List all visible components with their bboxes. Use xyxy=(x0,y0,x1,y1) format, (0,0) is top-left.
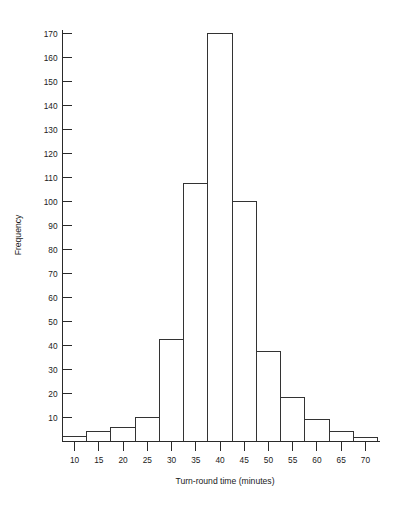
histogram-bar xyxy=(329,432,353,442)
y-tick-label: 30 xyxy=(48,365,58,375)
histogram-bar xyxy=(281,397,305,441)
x-tick-label: 15 xyxy=(94,455,104,465)
y-tick-label: 80 xyxy=(48,245,58,255)
y-tick-label: 90 xyxy=(48,221,58,231)
histogram-bar xyxy=(135,418,159,442)
histogram-bar xyxy=(159,340,183,442)
histogram-bar xyxy=(63,437,87,442)
histogram-bar xyxy=(184,184,208,442)
x-tick-label: 50 xyxy=(264,455,274,465)
x-tick-label: 10 xyxy=(70,455,80,465)
histogram-bar xyxy=(87,432,111,442)
chart-canvas: 1020304050607080901001101201301401501601… xyxy=(0,0,397,505)
x-tick-label: 45 xyxy=(240,455,250,465)
x-axis-ticks: 10152025303540455055606570 xyxy=(70,442,370,465)
y-tick-label: 60 xyxy=(48,293,58,303)
histogram-bar xyxy=(305,420,329,442)
x-axis-title: Turn-round time (minutes) xyxy=(175,476,274,486)
y-tick-label: 100 xyxy=(44,197,58,207)
y-axis-title: Frequency xyxy=(13,214,23,255)
histogram-chart: 1020304050607080901001101201301401501601… xyxy=(0,0,397,505)
x-tick-label: 30 xyxy=(167,455,177,465)
x-tick-label: 20 xyxy=(118,455,128,465)
y-tick-label: 120 xyxy=(44,149,58,159)
y-tick-label: 20 xyxy=(48,389,58,399)
y-tick-label: 150 xyxy=(44,77,58,87)
x-tick-label: 35 xyxy=(191,455,201,465)
y-tick-label: 110 xyxy=(44,173,58,183)
x-tick-label: 65 xyxy=(337,455,347,465)
x-tick-label: 70 xyxy=(361,455,371,465)
histogram-bar xyxy=(232,202,256,442)
x-tick-label: 25 xyxy=(143,455,153,465)
y-tick-label: 130 xyxy=(44,125,58,135)
y-tick-label: 160 xyxy=(44,53,58,63)
y-tick-label: 70 xyxy=(48,269,58,279)
histogram-bar xyxy=(256,352,280,442)
y-tick-label: 10 xyxy=(48,413,58,423)
y-tick-label: 140 xyxy=(44,101,58,111)
x-tick-label: 55 xyxy=(288,455,298,465)
histogram-bar xyxy=(208,34,232,442)
y-axis-ticks: 1020304050607080901001101201301401501601… xyxy=(44,29,72,423)
y-tick-label: 50 xyxy=(48,317,58,327)
x-tick-label: 60 xyxy=(312,455,322,465)
y-tick-label: 170 xyxy=(44,29,58,39)
x-tick-label: 40 xyxy=(215,455,225,465)
bars-group xyxy=(63,34,378,442)
y-tick-label: 40 xyxy=(48,341,58,351)
histogram-bar xyxy=(111,427,135,441)
